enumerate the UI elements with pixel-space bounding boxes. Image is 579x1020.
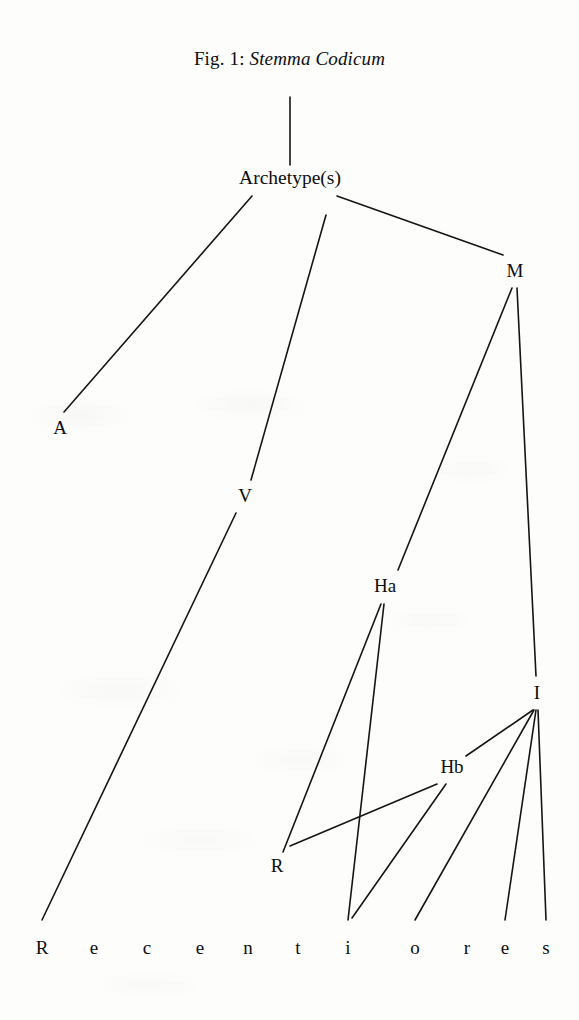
- recentiores-letter: o: [410, 938, 420, 957]
- edge-M-to-I: [517, 288, 536, 676]
- edge-M-to-Ha: [398, 288, 512, 570]
- edge-I-to-recs: [538, 710, 546, 920]
- recentiores-letter: e: [196, 938, 204, 957]
- edge-Ha-to-reci: [348, 604, 384, 920]
- node-archetype: Archetype(s): [239, 168, 341, 188]
- node-ha: Ha: [374, 576, 396, 595]
- figure-title-prefix: Fig. 1:: [194, 48, 245, 69]
- recentiores-letter: i: [345, 938, 350, 957]
- node-v: V: [238, 486, 252, 505]
- recentiores-letter: e: [501, 938, 509, 957]
- edge-I-to-Hb: [466, 710, 533, 756]
- edge-Hb-to-reci: [352, 784, 446, 918]
- node-r: R: [271, 856, 284, 875]
- edge-Ha-to-R: [283, 604, 381, 852]
- stemma-edges: [0, 0, 579, 1020]
- edge-V-to-recR: [42, 513, 236, 920]
- recentiores-letter: r: [464, 938, 470, 957]
- recentiores-letter: s: [542, 938, 549, 957]
- edge-I-to-rece: [505, 710, 536, 920]
- node-m: M: [507, 261, 524, 280]
- stemma-figure: Fig. 1: Stemma Codicum Archetype(s) A V …: [0, 0, 579, 1020]
- figure-title: Fig. 1: Stemma Codicum: [0, 48, 579, 70]
- node-a: A: [53, 418, 67, 437]
- edge-Hb-to-R: [290, 784, 437, 846]
- edge-archetype-to-M: [337, 196, 503, 255]
- node-hb: Hb: [440, 757, 463, 776]
- edge-I-to-reco: [415, 710, 534, 920]
- recentiores-letter: c: [143, 938, 151, 957]
- recentiores-letter: n: [243, 938, 253, 957]
- figure-title-italic: Stemma Codicum: [249, 48, 385, 69]
- node-i: I: [534, 683, 540, 702]
- recentiores-letter: t: [295, 938, 300, 957]
- recentiores-letter: e: [90, 938, 98, 957]
- edge-archetype-to-V: [251, 215, 326, 480]
- edge-archetype-to-A: [64, 196, 252, 412]
- recentiores-letter: R: [36, 938, 49, 957]
